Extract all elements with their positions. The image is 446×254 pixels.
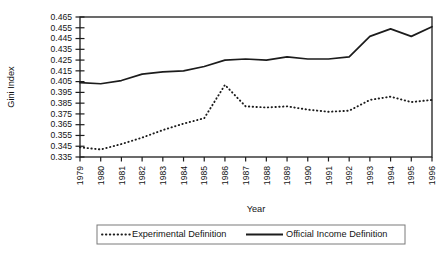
x-tick-label: 1979: [75, 166, 85, 185]
y-tick-label: 0.405: [50, 76, 72, 86]
x-tick-label: 1986: [220, 166, 230, 185]
x-tick-label: 1982: [137, 166, 147, 185]
y-tick-label: 0.345: [50, 141, 72, 151]
y-axis-title: Gini Index: [6, 66, 16, 108]
y-tick-label: 0.425: [50, 55, 72, 65]
y-tick-label: 0.385: [50, 98, 72, 108]
x-tick-label: 1981: [117, 166, 127, 185]
y-tick-label: 0.355: [50, 130, 72, 140]
x-tick-label: 1988: [262, 166, 272, 185]
y-tick-label: 0.465: [50, 12, 72, 22]
y-tick-label: 0.415: [50, 66, 72, 76]
x-tick-label: 1984: [179, 166, 189, 185]
x-axis-title: Year: [247, 204, 266, 214]
legend-label-experimental-definition: Experimental Definition: [132, 229, 226, 239]
chart-legend: Experimental DefinitionOfficial Income D…: [97, 225, 405, 244]
chart-canvas: 0.3350.3450.3550.3650.3750.3850.3950.405…: [0, 0, 446, 254]
y-tick-label: 0.455: [50, 23, 72, 33]
y-tick-label: 0.445: [50, 33, 72, 43]
y-tick-label: 0.335: [50, 152, 72, 162]
x-tick-label: 1985: [199, 166, 209, 185]
plot-area-frame: [80, 17, 432, 157]
legend-label-official-income-definition: Official Income Definition: [286, 229, 387, 239]
x-tick-label: 1993: [365, 166, 375, 185]
x-tick-label: 1994: [386, 166, 396, 185]
x-tick-label: 1991: [324, 166, 334, 185]
x-tick-label: 1995: [406, 166, 416, 185]
x-tick-label: 1990: [303, 166, 313, 185]
y-tick-label: 0.435: [50, 44, 72, 54]
x-tick-label: 1992: [344, 166, 354, 185]
x-tick-label: 1980: [96, 166, 106, 185]
series-line-experimental-definition: [80, 85, 432, 150]
series-line-official-income-definition: [80, 27, 432, 84]
x-tick-label: 1989: [282, 166, 292, 185]
y-tick-label: 0.365: [50, 119, 72, 129]
x-tick-label: 1987: [241, 166, 251, 185]
gini-index-line-chart: 0.3350.3450.3550.3650.3750.3850.3950.405…: [0, 0, 446, 254]
y-tick-label: 0.395: [50, 87, 72, 97]
x-axis: 1979198019811982198319841985198619871988…: [75, 157, 437, 185]
y-tick-label: 0.375: [50, 109, 72, 119]
x-tick-label: 1983: [158, 166, 168, 185]
x-tick-label: 1996: [427, 166, 437, 185]
